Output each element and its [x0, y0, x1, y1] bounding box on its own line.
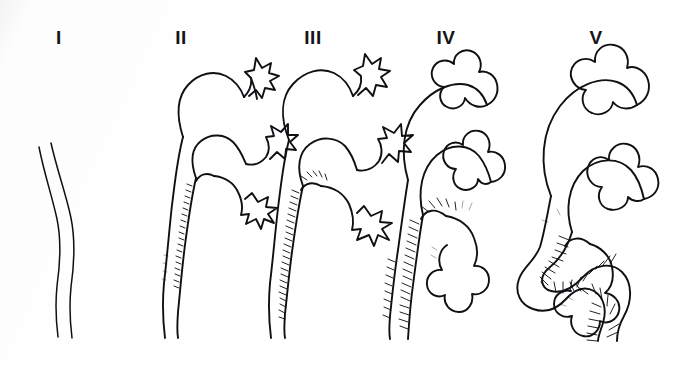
calyx-middle-5 [587, 144, 658, 210]
calyx-middle-2 [246, 124, 298, 165]
pelvis-inner-wall-3 [299, 139, 357, 186]
pelvis-inner-wall-5 [568, 160, 644, 232]
figure-grade-5 [517, 45, 658, 341]
hatching-4 [383, 198, 456, 329]
calyx-lower-4 [427, 216, 489, 312]
illustration-canvas: I II III IV V [0, 0, 677, 365]
calyx-upper-2 [244, 58, 279, 98]
ureter-left-wall-4 [389, 180, 408, 339]
calyx-middle-4 [443, 131, 505, 190]
ureter-left-wall-1 [39, 147, 60, 337]
grading-diagram-svg [0, 0, 677, 365]
ureter-right-wall-4 [408, 215, 423, 339]
hatching-5-middle [554, 254, 616, 293]
calyx-upper-4 [432, 50, 498, 108]
calyx-upper-3 [353, 54, 390, 96]
ureter-left-wall-2 [163, 137, 183, 338]
pelvis-outer-wall-3 [283, 70, 353, 140]
pelvis-outer-wall-5 [544, 80, 637, 196]
pelvis-outer-wall-4 [404, 84, 487, 180]
ureter-right-wall-1 [51, 143, 74, 338]
figure-grade-4 [383, 50, 505, 339]
calyx-lower-neck-3 [301, 183, 321, 190]
pelvis-outer-wall-2 [179, 73, 244, 137]
hatching-light-4 [431, 201, 472, 258]
calyx-lower-2 [196, 174, 214, 181]
calyx-lower-body-2 [214, 176, 277, 229]
calyx-lower-3 [321, 186, 392, 246]
hatching-2 [174, 184, 192, 288]
calyx-upper-neck-2 [251, 78, 257, 99]
pelvis-inner-wall-2 [193, 135, 246, 178]
figure-grade-1 [39, 143, 74, 338]
calyx-lower-neck-4 [421, 211, 446, 219]
ureter-right-wall-3 [284, 186, 303, 338]
figure-grade-2 [162, 58, 298, 338]
calyx-lower-5 [554, 244, 619, 336]
